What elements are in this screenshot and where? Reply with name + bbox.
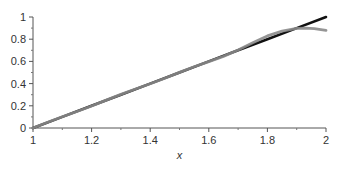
x-axis-label: x (176, 149, 183, 161)
y-tick-label: 0.4 (11, 78, 26, 90)
series-line-approximation (33, 28, 326, 128)
y-tick-label: 0.6 (11, 55, 26, 67)
x-tick-label: 1.6 (201, 134, 216, 146)
y-tick-label: 0 (20, 122, 26, 134)
x-tick-label: 2 (323, 134, 329, 146)
x-tick-label: 1.4 (143, 134, 158, 146)
chart: 11.21.41.61.8200.20.40.60.81 x (0, 0, 337, 173)
y-tick-label: 0.8 (11, 33, 26, 45)
x-tick-label: 1.2 (84, 134, 99, 146)
x-tick-label: 1.8 (260, 134, 275, 146)
y-tick-label: 1 (20, 11, 26, 23)
series-group (33, 17, 326, 128)
x-tick-label: 1 (30, 134, 36, 146)
y-tick-label: 0.2 (11, 100, 26, 112)
